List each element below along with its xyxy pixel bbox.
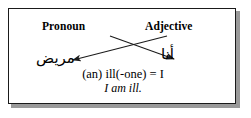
diagram-canvas: Pronoun Adjective مريض أنا (an) ill(-one… bbox=[0, 0, 251, 118]
diagram-frame: Pronoun Adjective مريض أنا (an) ill(-one… bbox=[8, 8, 236, 104]
arabic-term-i: أنا bbox=[161, 46, 174, 63]
gloss-literal: (an) ill(-one) = I bbox=[9, 67, 237, 81]
gloss-translation: I am ill. bbox=[9, 81, 237, 95]
arabic-term-ill: مريض bbox=[36, 50, 75, 67]
